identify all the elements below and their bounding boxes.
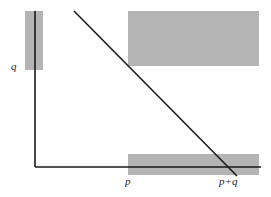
descending-line [74,11,237,176]
axis-label-p-plus-q: p+q [219,176,237,187]
figure-canvas: q p p+q [0,0,271,197]
axis-label-q: q [11,61,17,72]
axes-and-line [0,0,271,197]
axis-label-p: p [125,176,131,187]
